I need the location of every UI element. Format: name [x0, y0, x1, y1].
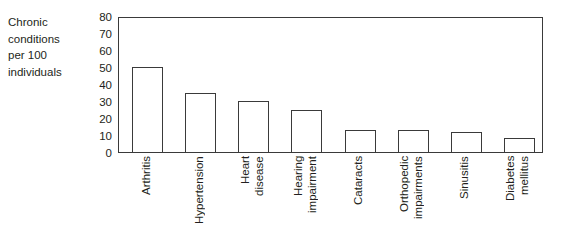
bar	[291, 110, 322, 153]
bar	[345, 130, 376, 152]
bar	[132, 67, 163, 152]
x-axis-category-label: Hypertension	[193, 156, 207, 246]
bar-chart-figure: Chronic conditions per 100 individuals 8…	[0, 0, 578, 247]
y-axis-tick-label: 0	[106, 147, 112, 160]
bar	[185, 93, 216, 153]
y-axis-tick-label: 60	[99, 45, 112, 58]
y-axis-tick-label: 10	[99, 130, 112, 143]
y-axis-tick-labels: 80706050403020100	[86, 10, 112, 160]
bars-layer	[119, 18, 542, 152]
x-axis-category-label: Sinusitis	[458, 156, 472, 246]
y-axis-tick-label: 40	[99, 79, 112, 92]
y-axis-tick-label: 70	[99, 28, 112, 41]
x-axis-category-label: Diabetes mellitus	[504, 156, 532, 246]
x-axis-category-label: Orthopedic impairments	[398, 156, 426, 246]
x-axis-category-label: Cataracts	[352, 156, 366, 246]
x-axis-category-label: Arthritis	[140, 156, 154, 246]
y-axis-tick-label: 50	[99, 62, 112, 75]
bar	[398, 130, 429, 152]
plot-area	[118, 17, 543, 153]
x-axis-category-label: Hearing impairment	[292, 156, 320, 246]
bar	[504, 138, 535, 152]
y-axis-title: Chronic conditions per 100 individuals	[8, 14, 82, 80]
y-axis-tick-label: 80	[99, 11, 112, 24]
y-axis-tick-label: 30	[99, 96, 112, 109]
x-axis-category-labels: ArthritisHypertensionHeart diseaseHearin…	[118, 156, 543, 247]
bar	[451, 132, 482, 152]
x-axis-category-label: Heart disease	[239, 156, 267, 246]
y-axis-tick-label: 20	[99, 113, 112, 126]
bar	[238, 101, 269, 152]
